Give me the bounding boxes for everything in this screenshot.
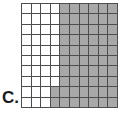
- grid-cell-unshaded: [31, 14, 41, 24]
- grid-cell-unshaded: [41, 4, 51, 14]
- grid-cell-shaded: [69, 55, 79, 65]
- grid-cell-shaded: [98, 4, 108, 14]
- grid-cell-unshaded: [50, 14, 60, 24]
- grid-cell-shaded: [69, 66, 79, 76]
- grid-row: [22, 35, 118, 45]
- grid-cell-shaded: [50, 97, 60, 107]
- grid-cell-shaded: [89, 66, 99, 76]
- grid-cell-unshaded: [41, 55, 51, 65]
- grid-cell-shaded: [98, 87, 108, 97]
- grid-cell-unshaded: [41, 24, 51, 34]
- grid-cell-shaded: [108, 66, 118, 76]
- grid-cell-shaded: [89, 97, 99, 107]
- grid-row: [22, 55, 118, 65]
- grid-cell-shaded: [79, 45, 89, 55]
- grid-cell-shaded: [89, 35, 99, 45]
- figure-container: C.: [0, 0, 132, 121]
- grid-cell-shaded: [69, 35, 79, 45]
- grid-cell-shaded: [89, 76, 99, 86]
- grid-cell-unshaded: [31, 66, 41, 76]
- grid-cell-unshaded: [50, 4, 60, 14]
- grid-cell-unshaded: [41, 87, 51, 97]
- grid-cell-shaded: [108, 4, 118, 14]
- grid-cell-shaded: [69, 14, 79, 24]
- grid-cell-unshaded: [41, 35, 51, 45]
- grid-cell-shaded: [98, 24, 108, 34]
- grid-cell-shaded: [60, 4, 70, 14]
- grid-cell-unshaded: [50, 66, 60, 76]
- grid-cell-shaded: [60, 24, 70, 34]
- grid-row: [22, 4, 118, 14]
- grid-row: [22, 24, 118, 34]
- grid-cell-shaded: [69, 87, 79, 97]
- grid-cell-shaded: [79, 97, 89, 107]
- grid-cell-shaded: [89, 55, 99, 65]
- grid-cell-unshaded: [22, 14, 32, 24]
- grid-cell-unshaded: [31, 4, 41, 14]
- grid-cell-shaded: [60, 45, 70, 55]
- grid-cell-unshaded: [31, 87, 41, 97]
- grid-cell-unshaded: [22, 24, 32, 34]
- grid-cell-shaded: [69, 97, 79, 107]
- grid-cell-shaded: [108, 76, 118, 86]
- grid-row: [22, 97, 118, 107]
- grid-row: [22, 14, 118, 24]
- grid-cell-unshaded: [41, 66, 51, 76]
- grid-cell-shaded: [89, 4, 99, 14]
- grid-cell-shaded: [98, 76, 108, 86]
- grid-cell-unshaded: [22, 45, 32, 55]
- grid-cell-shaded: [79, 66, 89, 76]
- grid-cell-unshaded: [22, 55, 32, 65]
- grid-cell-shaded: [60, 14, 70, 24]
- grid-body: [22, 4, 118, 108]
- grid-cell-shaded: [69, 4, 79, 14]
- grid-cell-unshaded: [41, 97, 51, 107]
- grid-cell-shaded: [98, 14, 108, 24]
- grid-row: [22, 45, 118, 55]
- grid-cell-shaded: [89, 45, 99, 55]
- grid-cell-shaded: [108, 87, 118, 97]
- grid-cell-unshaded: [22, 66, 32, 76]
- grid-cell-unshaded: [41, 14, 51, 24]
- grid-cell-unshaded: [22, 97, 32, 107]
- grid-cell-unshaded: [31, 76, 41, 86]
- grid-cell-unshaded: [50, 45, 60, 55]
- grid-cell-shaded: [60, 97, 70, 107]
- grid-cell-shaded: [79, 35, 89, 45]
- grid-cell-shaded: [79, 87, 89, 97]
- grid-cell-shaded: [108, 45, 118, 55]
- grid-cell-unshaded: [41, 76, 51, 86]
- grid-cell-shaded: [79, 4, 89, 14]
- grid-cell-shaded: [79, 14, 89, 24]
- grid-row: [22, 66, 118, 76]
- grid-cell-shaded: [60, 87, 70, 97]
- grid-cell-unshaded: [41, 45, 51, 55]
- grid-cell-shaded: [89, 87, 99, 97]
- grid-cell-unshaded: [50, 55, 60, 65]
- grid-cell-shaded: [69, 76, 79, 86]
- grid-cell-unshaded: [50, 24, 60, 34]
- grid-cell-shaded: [79, 24, 89, 34]
- grid-cell-shaded: [60, 76, 70, 86]
- grid-table: [21, 3, 118, 108]
- grid-cell-unshaded: [31, 45, 41, 55]
- grid-row: [22, 76, 118, 86]
- grid-cell-shaded: [108, 14, 118, 24]
- grid-cell-shaded: [98, 35, 108, 45]
- grid-cell-shaded: [108, 35, 118, 45]
- grid-cell-unshaded: [31, 97, 41, 107]
- grid-cell-unshaded: [22, 4, 32, 14]
- grid-cell-shaded: [79, 76, 89, 86]
- grid-cell-shaded: [60, 35, 70, 45]
- grid-cell-shaded: [98, 97, 108, 107]
- grid-cell-unshaded: [22, 35, 32, 45]
- grid-cell-shaded: [108, 24, 118, 34]
- grid-cell-unshaded: [22, 76, 32, 86]
- grid-cell-shaded: [79, 55, 89, 65]
- grid-cell-shaded: [89, 24, 99, 34]
- grid-cell-unshaded: [31, 35, 41, 45]
- figure-letter-label: C.: [2, 86, 21, 108]
- grid-cell-shaded: [108, 97, 118, 107]
- grid-cell-unshaded: [50, 35, 60, 45]
- grid-row: [22, 87, 118, 97]
